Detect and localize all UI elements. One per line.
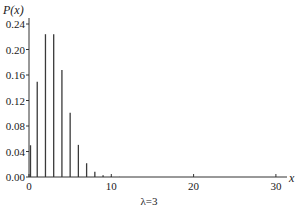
y-tick-label: 0.20 (6, 44, 26, 56)
x-tick-label: 30 (270, 180, 282, 192)
y-tick-label: 0.12 (6, 95, 25, 107)
chart: 0.000.040.080.120.160.200.24 0102030 P(x… (0, 0, 301, 212)
y-axis-ticks: 0.000.040.080.120.160.200.24 (6, 18, 29, 183)
y-tick-label: 0.08 (6, 120, 26, 132)
bars (31, 34, 120, 177)
x-tick-label: 20 (188, 180, 200, 192)
y-axis-title: P(x) (2, 3, 24, 17)
x-tick-label: 10 (106, 180, 118, 192)
y-tick-label: 0.16 (6, 69, 26, 81)
y-tick-label: 0.04 (6, 146, 26, 158)
lambda-annotation: λ=3 (140, 195, 158, 207)
x-tick-label: 0 (26, 180, 32, 192)
x-axis-title: x (288, 171, 295, 185)
y-tick-label: 0.24 (6, 18, 26, 30)
y-tick-label: 0.00 (6, 171, 26, 183)
